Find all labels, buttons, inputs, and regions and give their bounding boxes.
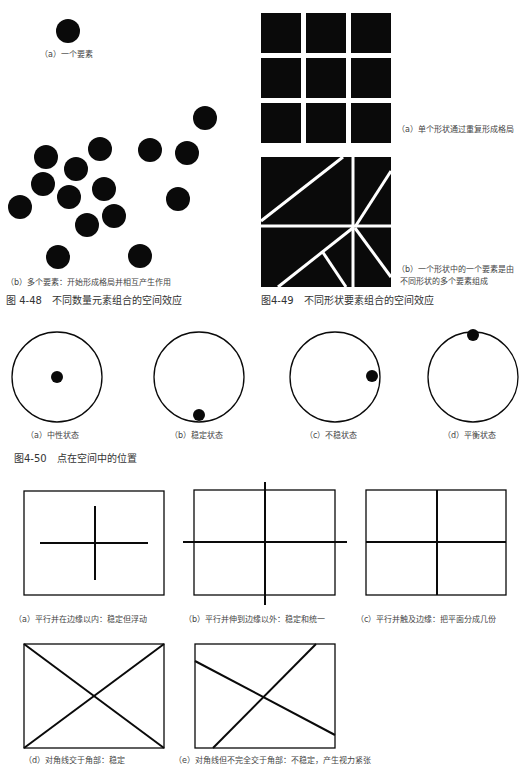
caption-4-48a: （a）一个要素 (40, 49, 93, 60)
caption-4-49a: （a）单个形状通过重复形成格局 (397, 124, 514, 135)
square-grid (261, 13, 391, 143)
divided-square (261, 157, 391, 287)
caption-4-48b: （b）多个要素：开始形成格局并相互产生作用 (6, 277, 171, 288)
caption-4-50c: （c）不稳状态 (305, 430, 357, 441)
circle-unstable (290, 332, 380, 422)
circle-stable (154, 332, 244, 422)
circle-balanced (428, 329, 518, 422)
rect-lines-inside (24, 491, 164, 595)
rect-diagonals-corner (24, 644, 164, 748)
caption-lines-d: （d）对角线交于角部：稳定 (24, 755, 125, 766)
caption-4-50b: （b）稳定状态 (170, 430, 223, 441)
caption-lines-e: （e）对角线但不完全交于角部：不稳定，产生视力紧张 (174, 755, 371, 766)
rect-lines-extended (183, 482, 347, 605)
figure-title-4-49: 图4-49 不同形状要素组合的空间效应 (261, 292, 434, 307)
dot-cluster (8, 106, 217, 269)
rect-lines-touching (366, 490, 506, 595)
caption-lines-b: （b）平行并伸到边缘以外：稳定和统一 (184, 614, 325, 625)
caption-4-49b-line2: 不同形状的多个要素组成 (400, 276, 488, 287)
rect-diagonals-offset (195, 644, 335, 748)
single-dot (56, 19, 80, 43)
caption-4-49b-line1: （b）一个形状中的一个要素是由 (397, 264, 514, 275)
circle-neutral (12, 332, 102, 422)
figure-title-4-48: 图 4-48 不同数量元素组合的空间效应 (6, 292, 182, 307)
figure-title-4-50: 图4-50 点在空间中的位置 (14, 450, 137, 465)
caption-lines-a: （a）平行并在边缘以内：稳定但浮动 (14, 614, 147, 625)
figure-graphics (0, 0, 532, 778)
caption-4-50a: （a）中性状态 (26, 430, 79, 441)
caption-lines-c: （c）平行并触及边缘：把平面分成几份 (356, 614, 496, 625)
caption-4-50d: （d）平衡状态 (443, 430, 496, 441)
